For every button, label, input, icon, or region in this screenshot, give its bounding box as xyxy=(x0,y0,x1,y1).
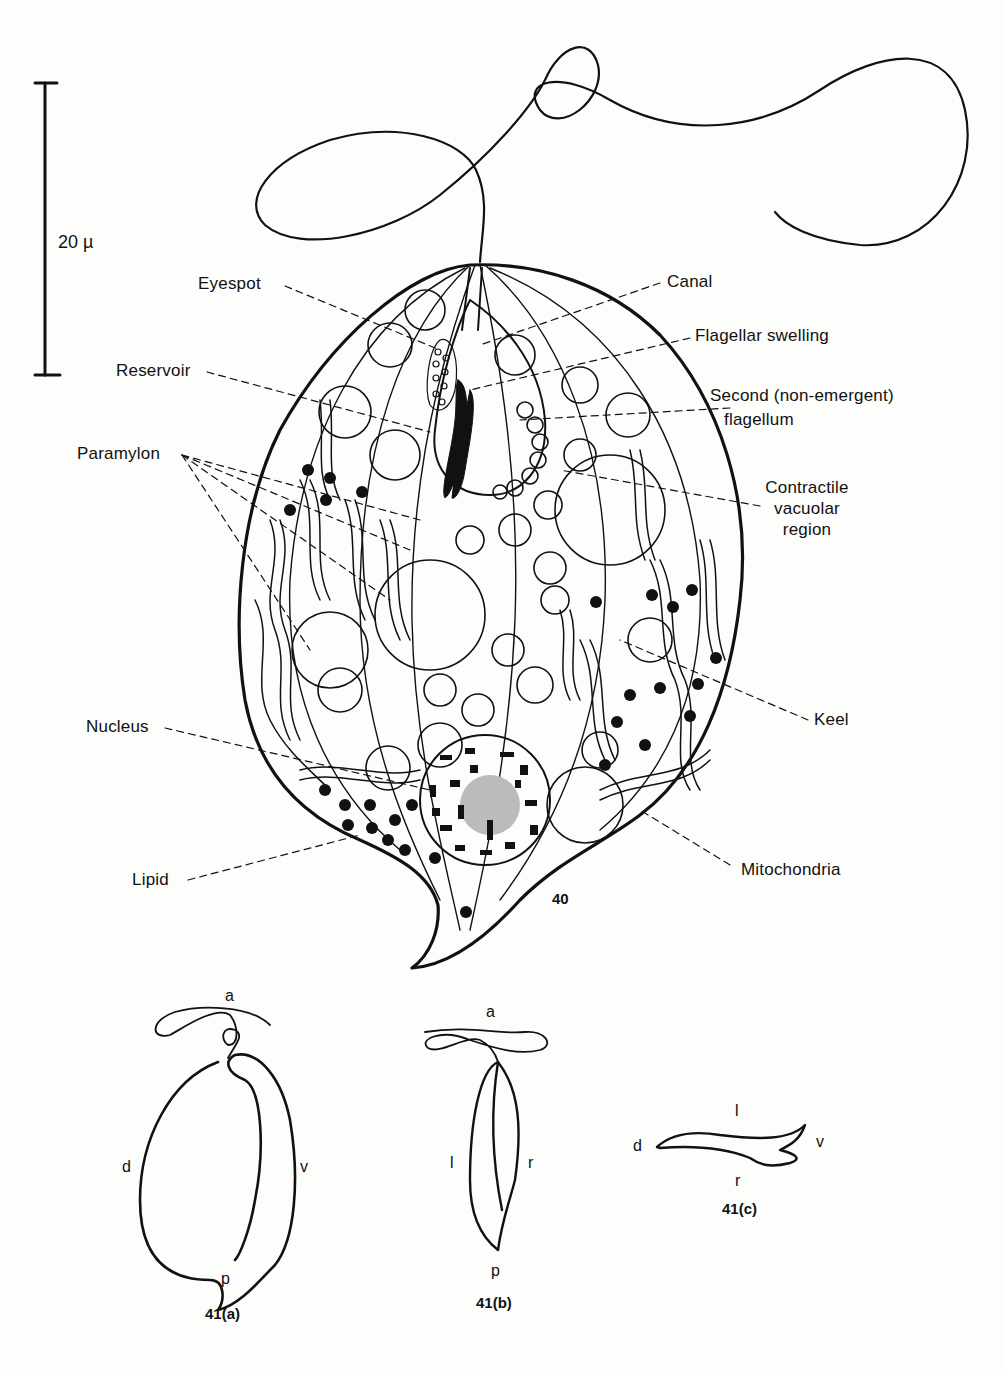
label-flagellar-swelling: Flagellar swelling xyxy=(695,326,829,346)
lipid-droplets xyxy=(284,464,722,918)
label-paramylon: Paramylon xyxy=(77,444,160,464)
figure-page: 20 µ Eyespot Reservoir Paramylon Nucleus… xyxy=(0,0,1005,1374)
fig41c-label-right: v xyxy=(816,1133,824,1151)
cell-outline xyxy=(239,265,742,968)
label-second-flagellum-line1: Second (non-emergent) xyxy=(710,386,894,406)
fig41b-label-top: a xyxy=(486,1003,495,1021)
fig41a-label-left: d xyxy=(122,1158,131,1176)
fig41b-label-left: l xyxy=(450,1154,454,1172)
label-contractile-line2: vacuolar xyxy=(752,499,862,519)
figure-41a-outline xyxy=(140,1054,295,1310)
label-keel: Keel xyxy=(814,710,849,730)
label-reservoir: Reservoir xyxy=(116,361,191,381)
canal xyxy=(462,268,482,330)
fig41a-label-right: v xyxy=(300,1158,308,1176)
nucleus xyxy=(420,735,550,865)
label-contractile-line1: Contractile xyxy=(752,478,862,498)
fig41b-label-right: r xyxy=(528,1154,533,1172)
label-mitochondria: Mitochondria xyxy=(741,860,841,880)
fig41a-label-top: a xyxy=(225,987,234,1005)
fig41c-label-top: l xyxy=(735,1102,739,1120)
fig41a-label-bottom: p xyxy=(221,1270,230,1288)
figure-41a-caption: 41(a) xyxy=(205,1305,240,1322)
label-canal: Canal xyxy=(667,272,712,292)
figure-41c-caption: 41(c) xyxy=(722,1200,757,1217)
label-contractile-line3: region xyxy=(752,520,862,540)
scale-bar xyxy=(35,83,60,375)
figure-41b-flagellum xyxy=(425,1029,547,1062)
label-second-flagellum-line2: flagellum xyxy=(724,410,794,430)
fig41c-label-bottom: r xyxy=(735,1172,740,1190)
eyespot xyxy=(427,339,456,410)
figure-40-number: 40 xyxy=(552,890,569,907)
figure-41a-flagellum xyxy=(156,1008,270,1058)
fig41b-label-bottom: p xyxy=(491,1262,500,1280)
label-lipid: Lipid xyxy=(132,870,169,890)
label-nucleus: Nucleus xyxy=(86,717,149,737)
flagellum xyxy=(256,47,968,262)
figure-41b-outline xyxy=(470,1062,519,1250)
label-eyespot: Eyespot xyxy=(198,274,261,294)
diagram-artwork xyxy=(0,0,1005,1374)
scale-bar-label: 20 µ xyxy=(58,232,93,253)
fig41c-label-left: d xyxy=(633,1137,642,1155)
figure-41b-caption: 41(b) xyxy=(476,1294,512,1311)
figure-41c-outline xyxy=(657,1125,805,1165)
